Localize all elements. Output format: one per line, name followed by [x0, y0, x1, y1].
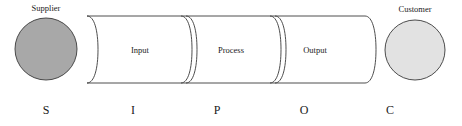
acronym-letter-c: C: [386, 103, 394, 117]
process-label: Process: [218, 45, 244, 55]
customer-circle[interactable]: [385, 20, 445, 80]
output-label: Output: [303, 45, 327, 55]
process-pipeline: Input Process Output: [87, 16, 376, 83]
acronym-letter-p: P: [214, 103, 221, 117]
acronym-letter-i: I: [131, 103, 135, 117]
supplier-node[interactable]: Supplier: [15, 3, 77, 80]
acronym-letter-o: O: [300, 103, 309, 117]
supplier-label: Supplier: [32, 3, 61, 13]
acronym-letter-s: S: [43, 103, 50, 117]
acronym-row: S I P O C: [43, 103, 394, 117]
customer-node[interactable]: Customer: [385, 4, 445, 80]
customer-label: Customer: [398, 4, 431, 14]
sipoc-diagram: Supplier Input Process Output: [0, 0, 462, 126]
input-label: Input: [131, 45, 150, 55]
supplier-circle[interactable]: [15, 18, 77, 80]
sipoc-canvas: Supplier Input Process Output: [0, 0, 462, 126]
